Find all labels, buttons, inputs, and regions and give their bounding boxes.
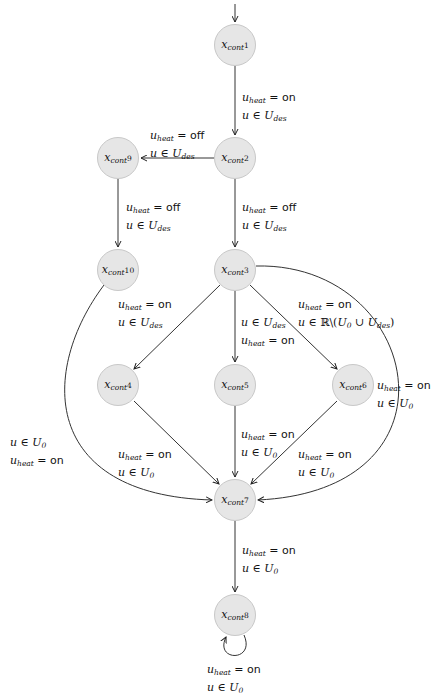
edge-label-x6-x7: uheat = on u ∈ U0 xyxy=(298,447,352,483)
state-node-x-cont-5: xcont5 xyxy=(214,364,256,406)
edge-label-x3-x6: uheat = on u ∈ ℝ\(U0 ∪ Udes) xyxy=(298,297,394,333)
edge-label-x1-x2: uheat = on u ∈ Udes xyxy=(242,90,296,126)
state-node-x-cont-6: xcont6 xyxy=(332,364,374,406)
state-node-x-cont-1: xcont1 xyxy=(214,24,256,66)
state-node-x-cont-3: xcont3 xyxy=(214,249,256,291)
edge-label-x4-x7: uheat = on u ∈ U0 xyxy=(118,447,172,483)
state-node-x-cont-4: xcont4 xyxy=(97,364,139,406)
edge-label-x3-x5: u ∈ Udes uheat = on xyxy=(241,315,295,351)
edge-label-x10-x7: uheat = on u ∈ Udes xyxy=(118,297,172,333)
state-node-x-cont-2: xcont2 xyxy=(214,137,256,179)
edge-label-x9-x10: uheat = off u ∈ Udes xyxy=(126,200,180,236)
edge-label-x2-x9: uheat = off u ∈ Udes xyxy=(150,128,204,164)
edge-label-left-curve: u ∈ U0 uheat = on xyxy=(10,435,64,471)
state-node-x-cont-7: xcont7 xyxy=(214,479,256,521)
edge-label-x5-x7: uheat = on u ∈ U0 xyxy=(241,427,295,463)
edge-x8-self-loop xyxy=(224,635,246,656)
edge-label-x7-x8: uheat = on u ∈ U0 xyxy=(242,543,296,579)
edge-label-x8-self-loop: uheat = on u ∈ U0 xyxy=(207,662,261,695)
state-node-x-cont-10: xcont10 xyxy=(97,249,139,291)
edges-layer xyxy=(0,0,447,695)
state-node-x-cont-8: xcont8 xyxy=(214,594,256,636)
edge-label-x3-x7: uheat = on u ∈ U0 xyxy=(377,378,431,414)
edge-label-x2-x3: uheat = off u ∈ Udes xyxy=(242,200,296,236)
state-node-x-cont-9: xcont9 xyxy=(97,137,139,179)
